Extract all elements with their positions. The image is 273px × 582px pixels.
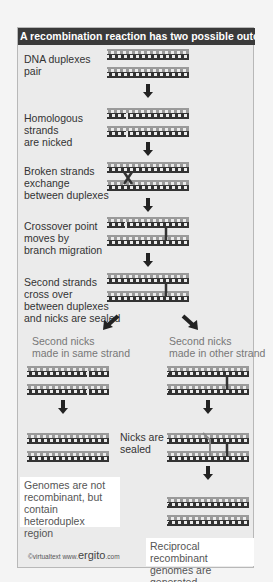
arrow-down-left-icon xyxy=(103,316,118,330)
duplex-pair-step1 xyxy=(107,49,189,78)
duplex-pair-right-sealed xyxy=(167,433,249,462)
duplex-pair-left-nicked xyxy=(27,366,109,395)
arrow-down-icon xyxy=(143,198,153,212)
duplex-pair-right-nicked xyxy=(167,366,249,395)
dna-diagram-graphics xyxy=(0,0,273,582)
arrow-down-icon xyxy=(143,84,153,98)
arrow-down-icon xyxy=(203,400,213,414)
arrow-down-icon xyxy=(143,142,153,156)
duplex-pair-right-recombinant xyxy=(167,497,249,526)
arrow-down-icon xyxy=(58,400,68,414)
duplex-pair-step5 xyxy=(107,273,189,302)
duplex-pair-step3 xyxy=(107,162,189,191)
arrow-down-icon xyxy=(203,466,213,480)
arrow-down-right-icon xyxy=(183,316,198,330)
duplex-pair-left-sealed xyxy=(27,433,109,462)
duplex-pair-step2 xyxy=(107,108,189,138)
arrow-down-icon xyxy=(143,253,153,267)
duplex-pair-step4 xyxy=(107,217,189,246)
